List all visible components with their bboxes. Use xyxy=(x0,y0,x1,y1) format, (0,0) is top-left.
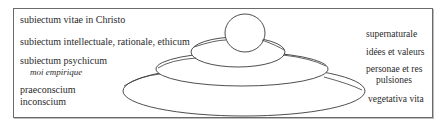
label-pulsiones: pulsiones xyxy=(376,75,412,85)
label-personae-et-res: personae et res xyxy=(366,64,422,74)
label-supernaturale: supernaturale xyxy=(366,29,417,39)
label-inconscium: inconscium xyxy=(20,96,66,107)
label-vegetativa-vita: vegetativa vita xyxy=(368,94,424,104)
label-idees-et-valeurs: idées et valeurs xyxy=(366,47,425,57)
label-praeconscium: praeconscium xyxy=(20,84,76,95)
label-moi-empirique: moi empirique xyxy=(30,67,82,78)
label-subiectum-psychicum: subiectum psychicum xyxy=(20,55,107,66)
label-subiectum-intellectuale: subiectum intellectuale, rationale, ethi… xyxy=(20,36,190,47)
circle-supernatural xyxy=(225,14,265,52)
label-subiectum-vitae-in-christo: subiectum vitae in Christo xyxy=(20,14,125,25)
